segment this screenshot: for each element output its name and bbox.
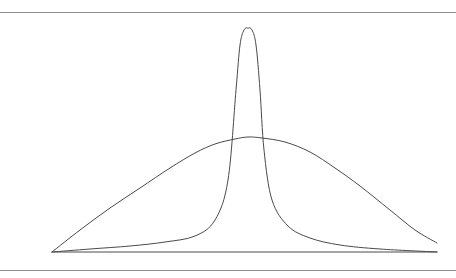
- distribution-plot: [0, 0, 456, 278]
- bottom-divider-rule: [0, 270, 456, 271]
- curve-platykurtic-broad: [52, 137, 437, 252]
- figure-container: [0, 0, 456, 278]
- curve-leptokurtic-narrow: [52, 28, 437, 252]
